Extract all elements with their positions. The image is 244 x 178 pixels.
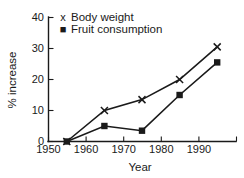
x-tick-label-1980: 1980 [149, 143, 173, 155]
y-tick-label-30: 30 [32, 42, 44, 54]
data-point-1965-fruit-consumption [101, 123, 107, 129]
y-tick-labels: 0 10 20 30 40 [32, 11, 44, 147]
legend-label-fruit-consumption: Fruit consumption [71, 23, 162, 35]
x-tick-label-1950: 1950 [36, 143, 60, 155]
chart-legend: x Body weight ■ Fruit consumption [60, 11, 163, 35]
data-point-1995-body-weight [214, 43, 221, 50]
y-tick-label-20: 20 [32, 73, 44, 85]
fruit-consumption-markers [64, 59, 221, 145]
body-weight-line [67, 47, 217, 142]
line-chart: 0 10 20 30 40 1950 1960 1970 1980 1990 Y… [0, 0, 244, 178]
x-tick-label-1970: 1970 [111, 143, 135, 155]
legend-item-body-weight: x Body weight [60, 11, 134, 23]
y-tick-marks [49, 18, 54, 142]
x-tick-label-1990: 1990 [187, 143, 211, 155]
x-axis-title: Year [128, 161, 151, 173]
y-tick-label-40: 40 [32, 11, 44, 23]
x-tick-label-1960: 1960 [74, 143, 98, 155]
y-tick-label-10: 10 [32, 104, 44, 116]
data-point-1995-fruit-consumption [214, 59, 220, 65]
legend-item-fruit-consumption: ■ Fruit consumption [60, 23, 163, 35]
x-tick-labels: 1950 1960 1970 1980 1990 [36, 143, 211, 155]
legend-label-body-weight: Body weight [71, 11, 134, 23]
axis-group [48, 17, 236, 142]
series-fruit-consumption [64, 59, 221, 145]
data-point-1955-fruit-consumption [64, 138, 70, 144]
data-point-1975-fruit-consumption [139, 128, 145, 134]
legend-x-marker-icon: x [60, 11, 66, 23]
data-point-1985-body-weight [176, 76, 183, 83]
legend-square-marker-icon: ■ [60, 23, 67, 35]
y-axis-title: % increase [6, 52, 18, 109]
chart-figure: 0 10 20 30 40 1950 1960 1970 1980 1990 Y… [0, 0, 244, 178]
data-point-1985-fruit-consumption [176, 92, 182, 98]
